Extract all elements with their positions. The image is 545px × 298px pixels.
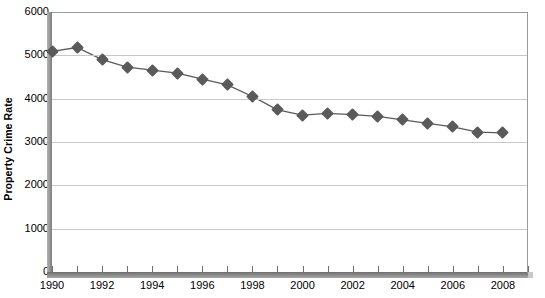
- x-axis-tick-label: 2008: [491, 279, 515, 291]
- x-axis-tick: [52, 266, 53, 272]
- y-axis-tick-labels: 6000500040003000200010000: [0, 0, 49, 298]
- gridline: [52, 142, 528, 143]
- x-axis-tick: [528, 266, 529, 272]
- series-polyline: [52, 48, 503, 133]
- plot-area: [52, 12, 528, 272]
- x-axis-tick: [77, 266, 78, 272]
- y-axis-tick-label: 0: [3, 266, 49, 277]
- x-axis-tick: [177, 266, 178, 272]
- x-axis-tick-label: 2002: [340, 279, 364, 291]
- x-axis-tick: [478, 266, 479, 272]
- x-axis-tick-label: 1992: [90, 279, 114, 291]
- y-axis-tick-label: 2000: [3, 179, 49, 190]
- x-axis-tick: [453, 266, 454, 272]
- x-axis-tick: [277, 266, 278, 272]
- x-axis-tick: [252, 266, 253, 272]
- gridline: [52, 55, 528, 56]
- x-axis-tick-label: 2000: [290, 279, 314, 291]
- x-axis-tick-label: 1994: [140, 279, 164, 291]
- gridline: [52, 185, 528, 186]
- x-axis-tick: [428, 266, 429, 272]
- x-axis-tick-label: 1996: [190, 279, 214, 291]
- x-axis-tick: [202, 266, 203, 272]
- x-axis-bar: [47, 272, 528, 278]
- y-axis-tick-label: 5000: [3, 49, 49, 60]
- x-axis-tick-label: 1998: [240, 279, 264, 291]
- x-axis-tick: [152, 266, 153, 272]
- y-axis-tick-label: 1000: [3, 223, 49, 234]
- x-axis-tick: [102, 266, 103, 272]
- property-crime-rate-chart: Property Crime Rate 60005000400030002000…: [0, 0, 545, 298]
- y-axis-tick-label: 6000: [3, 6, 49, 17]
- gridline: [52, 99, 528, 100]
- x-axis-tick-label: 2004: [390, 279, 414, 291]
- x-axis-tick: [403, 266, 404, 272]
- x-axis-tick: [303, 266, 304, 272]
- x-axis-tick-label: 1990: [40, 279, 64, 291]
- x-axis-tick: [127, 266, 128, 272]
- y-axis-tick-label: 4000: [3, 93, 49, 104]
- x-axis-tick-labels: 1990199219941996199820002002200420062008: [0, 279, 545, 298]
- x-axis-tick: [378, 266, 379, 272]
- y-axis-tick-label: 3000: [3, 136, 49, 147]
- x-axis-tick: [353, 266, 354, 272]
- x-axis-tick: [328, 266, 329, 272]
- gridline: [52, 229, 528, 230]
- x-axis-tick: [503, 266, 504, 272]
- x-axis-tick: [227, 266, 228, 272]
- x-axis-tick-label: 2006: [441, 279, 465, 291]
